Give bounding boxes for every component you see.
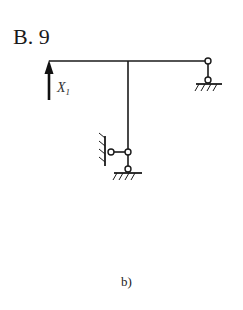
hinge-icon (205, 58, 211, 64)
force-label: X1 (56, 80, 70, 97)
force-arrow-icon (45, 60, 54, 100)
figure-caption: b) (121, 274, 132, 290)
hinge-icon (125, 166, 131, 172)
hinge-icon (125, 149, 131, 155)
structure-diagram: X1 (0, 0, 243, 310)
hinge-icon (205, 77, 211, 83)
hinge-icon (108, 149, 114, 155)
